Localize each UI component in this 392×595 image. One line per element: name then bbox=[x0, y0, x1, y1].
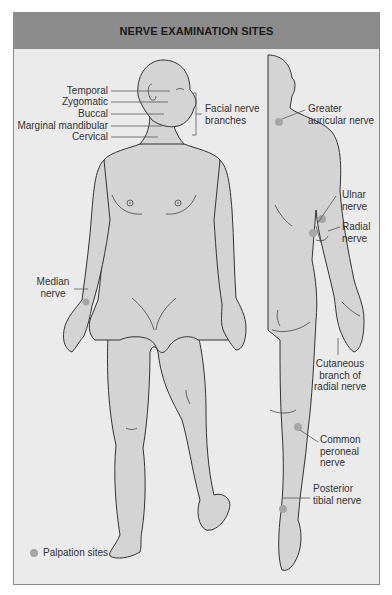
legend-label: Palpation sites bbox=[43, 547, 108, 558]
label-greater-auricular-nerve: Greater auricular nerve bbox=[308, 103, 374, 126]
palpation-dot-greater-auricular bbox=[275, 118, 283, 126]
palpation-dot-icon bbox=[30, 549, 38, 557]
palpation-dot-common-peroneal bbox=[294, 423, 302, 431]
label-cutaneous-radial-nerve: Cutaneous branch of radial nerve bbox=[314, 358, 366, 393]
label-buccal: Buccal bbox=[78, 108, 108, 120]
label-ulnar-nerve: Ulnar nerve bbox=[342, 189, 367, 212]
label-median-nerve: Median nerve bbox=[33, 276, 73, 299]
label-radial-nerve: Radial nerve bbox=[342, 221, 370, 244]
palpation-dot-posterior-tibial bbox=[279, 505, 287, 513]
label-facial-nerve-branches: Facial nerve branches bbox=[205, 103, 259, 126]
label-cervical: Cervical bbox=[72, 131, 108, 143]
label-marginal-mandibular: Marginal mandibular bbox=[17, 120, 108, 132]
label-zygomatic: Zygomatic bbox=[62, 96, 108, 108]
label-posterior-tibial-nerve: Posterior tibial nerve bbox=[313, 483, 361, 506]
legend: Palpation sites bbox=[30, 547, 108, 558]
label-temporal: Temporal bbox=[67, 85, 108, 97]
label-common-peroneal-nerve: Common peroneal nerve bbox=[320, 434, 361, 469]
palpation-dot-radial bbox=[309, 229, 317, 237]
palpation-dot-median bbox=[83, 299, 90, 306]
